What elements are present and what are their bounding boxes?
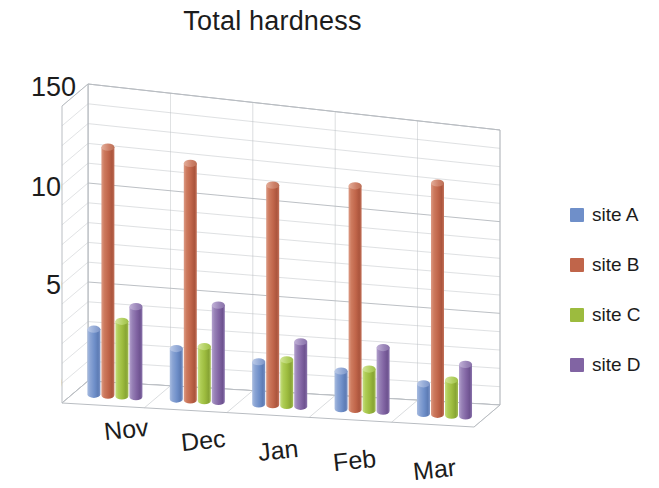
x-axis-tick-jan: Jan xyxy=(257,434,300,467)
bar-jan-site-c xyxy=(280,356,293,409)
chart-container: Total hardness 150 100 50 0 xyxy=(0,0,659,488)
bar-nov-site-c xyxy=(115,318,128,400)
legend-swatch-site-a xyxy=(570,208,584,222)
chart-legend: site A site B site C site D xyxy=(570,190,658,390)
x-axis-tick-mar: Mar xyxy=(412,453,458,486)
legend-item-site-c[interactable]: site C xyxy=(570,290,658,340)
bar-dec-site-d xyxy=(212,301,225,405)
bar-nov-site-a xyxy=(87,326,100,398)
bar-mar-site-a xyxy=(417,380,430,417)
bar-nov-site-b xyxy=(101,144,114,399)
bar-dec-site-c xyxy=(198,343,211,404)
bar-mar-site-d xyxy=(459,361,472,420)
x-axis-tick-nov: Nov xyxy=(103,413,150,446)
bar-mar-site-b xyxy=(431,179,444,418)
bar-jan-site-a xyxy=(252,358,265,407)
legend-item-site-b[interactable]: site B xyxy=(570,240,658,290)
legend-label-site-c: site C xyxy=(592,304,641,326)
legend-label-site-d: site D xyxy=(592,354,641,376)
legend-item-site-d[interactable]: site D xyxy=(570,340,658,390)
bar-nov-site-d xyxy=(129,303,142,400)
legend-swatch-site-c xyxy=(570,308,584,322)
legend-swatch-site-b xyxy=(570,258,584,272)
bar-feb-site-a xyxy=(335,367,348,412)
legend-item-site-a[interactable]: site A xyxy=(570,190,658,240)
bar-mar-site-c xyxy=(445,376,458,418)
bar-feb-site-d xyxy=(377,344,390,415)
bar-feb-site-c xyxy=(363,365,376,413)
legend-label-site-b: site B xyxy=(592,254,640,276)
bar-dec-site-a xyxy=(170,345,183,403)
bar-dec-site-b xyxy=(184,160,197,404)
bar-jan-site-b xyxy=(266,182,279,409)
plot-area xyxy=(0,0,659,488)
bar-feb-site-b xyxy=(349,182,362,413)
x-axis-tick-feb: Feb xyxy=(332,444,378,477)
x-axis-tick-dec: Dec xyxy=(180,424,227,457)
legend-swatch-site-d xyxy=(570,358,584,372)
bar-jan-site-d xyxy=(294,338,307,410)
legend-label-site-a: site A xyxy=(592,204,638,226)
